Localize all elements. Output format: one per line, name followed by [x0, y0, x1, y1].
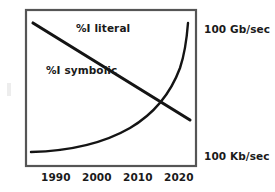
x-axis-tick-2010: 2010: [123, 172, 153, 183]
rate-annotation-bottom: 100 Kb/sec: [204, 151, 270, 162]
series-label-literal: %I literal: [76, 23, 130, 34]
rate-annotation-top: 100 Gb/sec: [204, 24, 270, 35]
chart-figure: %I literal %I symbolic 100 Gb/sec 100 Kb…: [0, 0, 275, 192]
x-axis-tick-2020: 2020: [164, 172, 194, 183]
x-axis-tick-2000: 2000: [82, 172, 112, 183]
series-label-symbolic: %I symbolic: [46, 65, 117, 76]
scan-artifact: [7, 83, 11, 96]
x-axis-tick-1990: 1990: [41, 172, 71, 183]
